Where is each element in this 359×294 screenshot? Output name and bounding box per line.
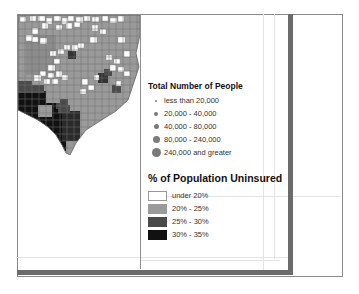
legend-uninsured: % of Population Uninsured under 20% 20% … [148, 172, 282, 241]
circle-size-icon [154, 112, 158, 116]
circle-size-icon [155, 100, 157, 102]
legend-people-item: 240,000 and greater [148, 146, 243, 159]
legend-people-item: 20,000 - 40,000 [148, 107, 243, 120]
legend-uninsured-item: under 20% [148, 189, 282, 202]
layout-frame-right[interactable] [288, 14, 293, 274]
color-swatch-icon [148, 217, 167, 227]
legend-item-label: 20,000 - 40,000 [164, 109, 217, 118]
guide-line-h1 [17, 257, 293, 258]
color-swatch-icon [148, 230, 167, 240]
circle-size-icon [153, 136, 160, 143]
legend-item-label: 40,000 - 80,000 [164, 122, 217, 131]
map-panel-divider [140, 14, 141, 269]
legend-uninsured-item: 25% - 30% [148, 215, 282, 228]
legend-item-label: 30% - 35% [172, 230, 209, 239]
guide-line-h2 [140, 260, 280, 261]
legend-item-label: 240,000 and greater [164, 148, 232, 157]
legend-people-item: 80,000 - 240,000 [148, 133, 243, 146]
color-swatch-icon [148, 204, 167, 214]
legend-item-label: 80,000 - 240,000 [164, 135, 221, 144]
legend-total-people: Total Number of People less than 20,000 … [148, 81, 243, 159]
legend-uninsured-item: 30% - 35% [148, 228, 282, 241]
circle-size-icon [152, 148, 161, 157]
legend-item-label: under 20% [172, 191, 208, 200]
color-swatch-icon [148, 191, 167, 201]
layout-frame-bottom[interactable] [17, 270, 293, 275]
legend-item-label: less than 20,000 [164, 96, 219, 105]
legend-uninsured-item: 20% - 25% [148, 202, 282, 215]
legend-people-title: Total Number of People [148, 81, 243, 91]
legend-item-label: 20% - 25% [172, 204, 209, 213]
circle-size-icon [154, 124, 159, 129]
legend-item-label: 25% - 30% [172, 217, 209, 226]
choropleth-map[interactable] [18, 15, 140, 155]
legend-people-item: less than 20,000 [148, 94, 243, 107]
legend-people-item: 40,000 - 80,000 [148, 120, 243, 133]
legend-uninsured-title: % of Population Uninsured [148, 172, 282, 184]
